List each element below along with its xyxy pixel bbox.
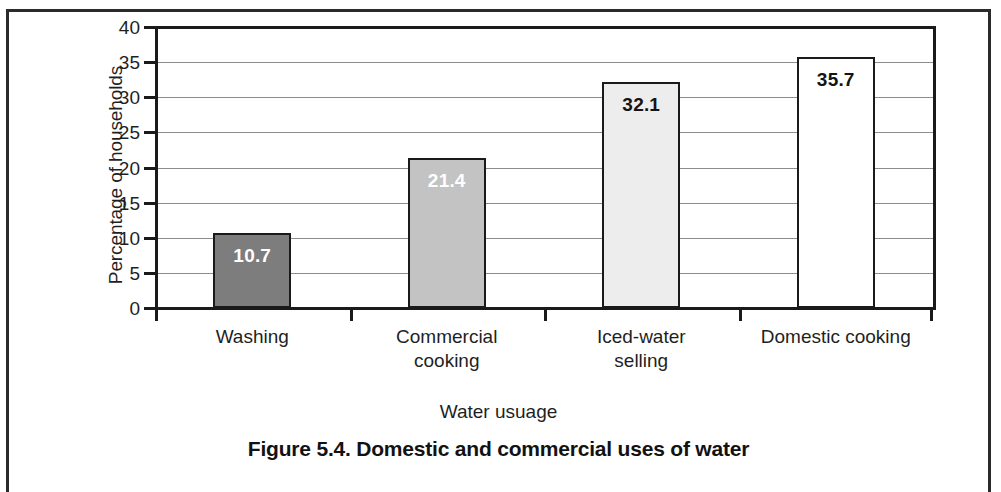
- y-axis-tick-label: 40: [94, 18, 140, 37]
- bar[interactable]: 32.1: [602, 82, 680, 308]
- x-axis-category-label-line: Commercial: [350, 325, 545, 349]
- page-frame-right-border: [988, 9, 991, 492]
- y-axis-tick-mark: [144, 307, 155, 310]
- x-axis-category-label-line: cooking: [350, 349, 545, 373]
- y-axis-tick-label: 15: [94, 194, 140, 213]
- x-axis-tick-mark: [155, 309, 158, 321]
- x-axis-category-label: Commercialcooking: [350, 325, 545, 373]
- y-axis-tick-mark: [144, 26, 155, 29]
- y-axis-tick-mark: [144, 61, 155, 64]
- x-axis-category-label: Iced-waterselling: [544, 325, 739, 373]
- x-axis-category-label: Domestic cooking: [739, 325, 934, 349]
- x-axis-category-label-line: selling: [544, 349, 739, 373]
- figure-caption: Figure 5.4. Domestic and commercial uses…: [9, 437, 988, 461]
- bar-value-label: 21.4: [410, 171, 484, 190]
- y-axis-tick-mark: [144, 167, 155, 170]
- y-axis-tick-label: 35: [94, 53, 140, 72]
- bar-chart-figure: Percentage of households 051015202530354…: [9, 12, 988, 490]
- bar-value-label: 35.7: [799, 70, 873, 89]
- x-axis-tick-mark: [930, 309, 933, 321]
- bar-value-label: 32.1: [604, 95, 678, 114]
- y-axis-tick-mark: [144, 237, 155, 240]
- x-axis-tick-mark: [544, 309, 547, 321]
- y-axis-tick-mark: [144, 272, 155, 275]
- bar[interactable]: 21.4: [408, 158, 486, 308]
- figure-page: Percentage of households 051015202530354…: [0, 0, 1001, 492]
- x-axis-category-label-line: Domestic cooking: [739, 325, 934, 349]
- x-axis-category-label-line: Washing: [155, 325, 350, 349]
- x-axis-tick-mark: [350, 309, 353, 321]
- x-axis-title: Water usuage: [9, 401, 988, 423]
- y-axis-tick-label: 5: [94, 264, 140, 283]
- y-axis-tick-label: 0: [94, 299, 140, 318]
- x-axis-category-label-line: Iced-water: [544, 325, 739, 349]
- y-axis-tick-label: 30: [94, 88, 140, 107]
- plot-right-rule: [933, 26, 936, 310]
- y-axis-tick-label: 20: [94, 159, 140, 178]
- y-axis-tick-label: 10: [94, 229, 140, 248]
- plot-area: 10.721.432.135.7: [155, 27, 933, 308]
- bar-value-label: 10.7: [215, 246, 289, 265]
- x-axis-category-label: Washing: [155, 325, 350, 349]
- y-axis-tick-mark: [144, 96, 155, 99]
- bar[interactable]: 35.7: [797, 57, 875, 308]
- x-axis-tick-mark: [739, 309, 742, 321]
- y-axis-tick-mark: [144, 202, 155, 205]
- y-axis-tick-mark: [144, 131, 155, 134]
- y-axis-tick-label: 25: [94, 123, 140, 142]
- bar[interactable]: 10.7: [213, 233, 291, 308]
